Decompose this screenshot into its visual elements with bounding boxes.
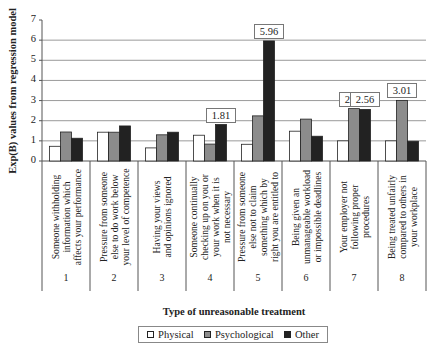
y-tick-label: 5 [24,53,36,64]
bar-other [408,141,419,161]
category-number: 5 [234,272,282,283]
bar-psychological [109,132,120,161]
chart: Exp(B) values from regression model 0123… [0,0,432,359]
legend-swatch-physical [147,331,154,338]
category-description-text: Having your views and opinions ignored [151,176,173,257]
bar-psychological [157,135,168,161]
category-number: 6 [282,272,330,283]
category-number: 1 [42,272,90,283]
y-tick-label: 6 [24,33,36,44]
y-tick-label: 0 [24,154,36,165]
category-number: 3 [138,272,186,283]
value-label: 2.56 [350,92,380,107]
legend-item-other: Other [284,329,319,340]
bar-other [168,132,179,161]
bar-psychological [205,144,216,161]
bar-physical [98,132,109,161]
legend: Physical Psychological Other [138,326,328,343]
category-number: 7 [330,272,378,283]
y-tick-label: 4 [24,73,36,84]
bar-other [360,109,371,161]
y-tick-label: 3 [24,94,36,105]
category-description-text: Someone withholding information which af… [50,169,83,265]
category-number: 4 [186,272,234,283]
category-number: 8 [378,272,426,283]
category-description-text: Someone continually checking up on you o… [188,174,232,260]
bar-physical [338,141,349,161]
legend-label-physical: Physical [158,329,194,340]
category-description: Being given an unmanageable workload or … [282,163,330,271]
y-tick-label: 1 [24,134,36,145]
bar-psychological [253,116,264,161]
category-description: Pressure from someone else to do work be… [90,163,138,271]
bar-psychological [301,119,312,161]
y-tick-label: 7 [24,13,36,24]
bar-physical [386,141,397,161]
category-description: Someone continually checking up on you o… [186,163,234,271]
category-description-text: Pressure from someone else to do work be… [98,168,131,265]
legend-item-physical: Physical [147,329,194,340]
category-description: Someone withholding information which af… [42,163,90,271]
legend-label-other: Other [295,329,319,340]
bar-other [264,41,275,161]
bar-other [216,125,227,161]
bar-other [312,136,323,161]
value-label: 1.81 [206,108,236,123]
bar-physical [290,131,301,161]
legend-item-psychological: Psychological [204,329,274,340]
legend-swatch-other [284,331,291,338]
bar-physical [50,146,61,161]
category-description-text: Being treated unfairly compared to other… [386,175,419,259]
category-description-text: Being given an unmanageable workload or … [290,170,323,264]
category-number: 2 [90,272,138,283]
category-description-text: Your employer not following proper proce… [338,181,371,253]
bar-psychological [397,100,408,161]
bar-physical [194,135,205,161]
legend-label-psychological: Psychological [215,329,274,340]
category-description: Having your views and opinions ignored [138,163,186,271]
bar-other [72,138,83,161]
category-description: Pressure from someone else not to claim … [234,163,282,271]
legend-swatch-psychological [204,331,211,338]
value-label: 5.96 [254,24,284,39]
bar-physical [146,148,157,161]
category-description: Your employer not following proper proce… [330,163,378,271]
bar-other [120,126,131,161]
x-axis-title: Type of unreasonable treatment [42,306,426,317]
bar-psychological [349,109,360,161]
bar-physical [242,144,253,161]
value-label: 3.01 [387,83,417,98]
y-tick-label: 2 [24,114,36,125]
category-description-text: Pressure from someone else not to claim … [236,172,280,262]
bar-psychological [61,132,72,161]
category-description: Being treated unfairly compared to other… [378,163,426,271]
